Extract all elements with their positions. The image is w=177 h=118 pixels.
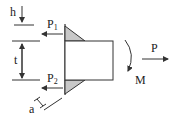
- a-label: a: [29, 102, 35, 116]
- p2-force: P2: [42, 71, 63, 88]
- p2-label: P2: [47, 71, 58, 86]
- p1-label: P1: [47, 17, 58, 32]
- t-dimension: t: [12, 41, 40, 80]
- p1-force: P1: [42, 17, 63, 34]
- h-dimension: h: [10, 5, 34, 25]
- attached-bar: [65, 41, 113, 80]
- weld-diagram: h t P1 P2 a M P: [0, 0, 177, 118]
- bottom-weld: [65, 80, 85, 94]
- t-label: t: [14, 53, 18, 67]
- p-force: P: [142, 41, 168, 59]
- top-weld: [65, 26, 85, 41]
- a-dimension: a: [29, 97, 62, 116]
- h-label: h: [10, 5, 16, 19]
- m-label: M: [135, 73, 146, 87]
- moment-m: M: [125, 40, 146, 87]
- p-label: P: [151, 41, 158, 55]
